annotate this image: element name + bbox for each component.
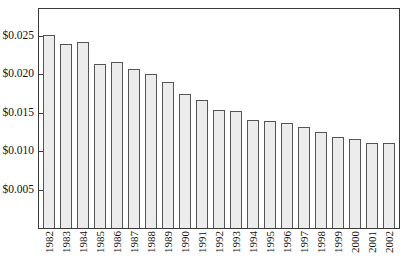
x-tick-label: 2002 (384, 231, 395, 253)
x-tick-label: 1987 (129, 231, 140, 253)
bar (145, 74, 157, 228)
x-tick-label: 1996 (282, 231, 293, 253)
y-tick-label: $0.025 (2, 30, 34, 42)
bar (247, 120, 259, 228)
x-tick: 1993 (230, 231, 242, 271)
y-tick-label: $0.010 (2, 145, 34, 157)
bar (60, 44, 72, 228)
x-tick: 1994 (247, 231, 259, 271)
x-tick-label: 1992 (214, 231, 225, 253)
y-axis: $0.005$0.010$0.015$0.020$0.025 (0, 0, 34, 271)
x-tick: 1988 (145, 231, 157, 271)
y-tick-label: $0.015 (2, 107, 34, 119)
bar (77, 42, 89, 228)
bar (366, 143, 378, 228)
y-tick-mark (38, 151, 43, 152)
x-tick: 1997 (298, 231, 310, 271)
x-tick: 1986 (111, 231, 123, 271)
bar-chart: $0.005$0.010$0.015$0.020$0.025 198219831… (0, 0, 408, 271)
x-tick-label: 1983 (61, 231, 72, 253)
x-tick-label: 1991 (197, 231, 208, 253)
x-tick: 2001 (366, 231, 378, 271)
bars-area (39, 9, 399, 228)
bar (162, 82, 174, 228)
x-tick-label: 2001 (367, 231, 378, 253)
x-tick-label: 1995 (265, 231, 276, 253)
y-tick-mark (38, 36, 43, 37)
x-tick: 1987 (128, 231, 140, 271)
y-tick-label: $0.005 (2, 184, 34, 196)
x-tick-label: 1985 (95, 231, 106, 253)
bar (213, 110, 225, 228)
bar (349, 139, 361, 228)
bar (298, 127, 310, 228)
bar (281, 123, 293, 228)
bar (128, 69, 140, 228)
bar (315, 132, 327, 228)
bar (230, 111, 242, 228)
bar (179, 94, 191, 228)
x-tick-label: 1997 (299, 231, 310, 253)
y-tick-mark (38, 113, 43, 114)
x-tick-label: 2000 (350, 231, 361, 253)
bar (383, 143, 395, 228)
x-tick: 1998 (315, 231, 327, 271)
y-tick-mark (38, 74, 43, 75)
x-tick: 1985 (94, 231, 106, 271)
x-tick: 1982 (43, 231, 55, 271)
bar (94, 64, 106, 228)
x-tick: 1990 (179, 231, 191, 271)
x-tick-label: 1993 (231, 231, 242, 253)
x-tick: 1996 (281, 231, 293, 271)
x-tick-label: 1989 (163, 231, 174, 253)
x-tick-label: 1999 (333, 231, 344, 253)
bar (264, 121, 276, 228)
y-tick-label: $0.020 (2, 69, 34, 81)
x-tick-label: 1984 (78, 231, 89, 253)
x-tick: 1983 (60, 231, 72, 271)
x-tick: 1995 (264, 231, 276, 271)
x-tick: 1999 (332, 231, 344, 271)
x-tick: 1992 (213, 231, 225, 271)
bar (332, 137, 344, 228)
x-tick: 1984 (77, 231, 89, 271)
x-tick-label: 1982 (44, 231, 55, 253)
x-tick: 2000 (349, 231, 361, 271)
x-tick-label: 1998 (316, 231, 327, 253)
x-tick: 2002 (383, 231, 395, 271)
bar (43, 35, 55, 228)
bar (111, 62, 123, 228)
x-axis: 1982198319841985198619871988198919901991… (39, 231, 399, 271)
y-tick-mark (38, 190, 43, 191)
x-tick-label: 1994 (248, 231, 259, 253)
x-tick-label: 1990 (180, 231, 191, 253)
x-tick-label: 1986 (112, 231, 123, 253)
x-tick: 1989 (162, 231, 174, 271)
x-tick-label: 1988 (146, 231, 157, 253)
x-tick: 1991 (196, 231, 208, 271)
bar (196, 100, 208, 228)
